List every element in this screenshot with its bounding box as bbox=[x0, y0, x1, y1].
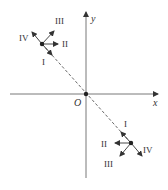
ul-label-III: III bbox=[55, 16, 64, 26]
origin-label: O bbox=[74, 97, 81, 108]
x-axis-label: x bbox=[152, 97, 158, 108]
force-diagram: x y O I II III IV I II III IV bbox=[0, 0, 168, 190]
ul-label-I: I bbox=[42, 57, 45, 67]
ul-label-IV: IV bbox=[19, 33, 29, 43]
upper-left-point: I II III IV bbox=[19, 16, 68, 67]
y-axis-label: y bbox=[90, 13, 96, 24]
lower-right-point: I II III IV bbox=[101, 119, 153, 169]
lr-label-II: II bbox=[101, 139, 107, 149]
origin-dot bbox=[84, 92, 88, 96]
lr-label-IV: IV bbox=[143, 145, 153, 155]
lr-label-I: I bbox=[124, 119, 127, 129]
ul-label-II: II bbox=[62, 39, 68, 49]
lr-label-III: III bbox=[104, 159, 113, 169]
